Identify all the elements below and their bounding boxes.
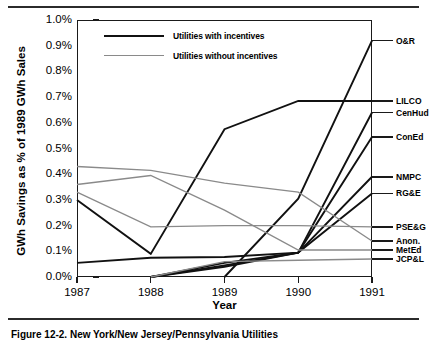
series-line: [225, 41, 373, 277]
series-label-leader: [372, 193, 393, 195]
series-label-leader: [372, 40, 393, 42]
y-tick-label: 0.0%: [26, 271, 72, 282]
x-axis-label: Year: [77, 299, 372, 311]
figure-rule-bottom: [8, 318, 419, 320]
series-label-leader: [372, 226, 393, 228]
x-tick-mark: [76, 277, 77, 283]
y-tick-label: 0.6%: [26, 117, 72, 128]
chart-legend: Utilities with incentives Utilities with…: [104, 28, 277, 68]
series-label-jcp-l: JCP&L: [396, 254, 424, 264]
legend-label-without-incentives: Utilities without incentives: [173, 51, 277, 61]
series-label-leader: [372, 240, 393, 242]
legend-swatch-without-incentives: [104, 55, 164, 56]
y-axis-ticks: 0.0%0.1%0.2%0.3%0.4%0.5%0.6%0.7%0.8%0.9%…: [22, 0, 72, 312]
legend-label-with-incentives: Utilities with incentives: [173, 31, 265, 41]
y-tick-label: 0.8%: [26, 65, 72, 76]
x-tick-mark: [150, 277, 151, 283]
y-tick-label: 0.5%: [26, 143, 72, 154]
series-label-leader: [372, 112, 393, 114]
series-line: [151, 137, 372, 277]
legend-item-with-incentives: Utilities with incentives: [104, 28, 277, 43]
figure-caption: Figure 12-2. New York/New Jersey/Pennsyl…: [11, 329, 421, 343]
series-label-leader: [372, 258, 393, 260]
y-tick-label: 0.1%: [26, 245, 72, 256]
series-label-o-r: O&R: [396, 36, 415, 46]
series-label-leader: [372, 100, 393, 102]
series-labels: O&RLILCOCenHudConEdNMPCRG&EPSE&GAnon.Met…: [372, 0, 432, 312]
series-label-coned: ConEd: [396, 132, 423, 142]
y-tick-label: 0.3%: [26, 194, 72, 205]
y-tick-label: 0.2%: [26, 220, 72, 231]
y-tick-label: 0.9%: [26, 40, 72, 51]
y-tick-label: 1.0%: [26, 14, 72, 25]
series-label-pse-g: PSE&G: [396, 222, 426, 232]
y-tick-label: 0.7%: [26, 91, 72, 102]
series-label-nmpc: NMPC: [396, 172, 421, 182]
series-label-leader: [372, 136, 393, 138]
series-label-leader: [372, 249, 393, 251]
x-tick-label: 1987: [47, 286, 107, 298]
x-tick-label: 1990: [268, 286, 328, 298]
legend-item-without-incentives: Utilities without incentives: [104, 48, 277, 63]
x-tick-mark: [224, 277, 225, 283]
series-line: [151, 259, 372, 277]
x-tick-label: 1989: [195, 286, 255, 298]
line-chart: GWh Savings as % of 1989 GWh Sales 0.0%0…: [0, 0, 427, 312]
series-label-lilco: LILCO: [396, 96, 422, 106]
series-line: [77, 193, 372, 262]
x-tick-mark: [298, 277, 299, 283]
series-label-cenhud: CenHud: [396, 108, 429, 118]
series-label-rg-e: RG&E: [396, 188, 421, 198]
legend-swatch-with-incentives: [104, 35, 164, 37]
y-tick-label: 0.4%: [26, 168, 72, 179]
series-line: [77, 101, 372, 254]
series-label-leader: [372, 176, 393, 178]
x-tick-label: 1988: [121, 286, 181, 298]
series-line: [151, 113, 372, 277]
